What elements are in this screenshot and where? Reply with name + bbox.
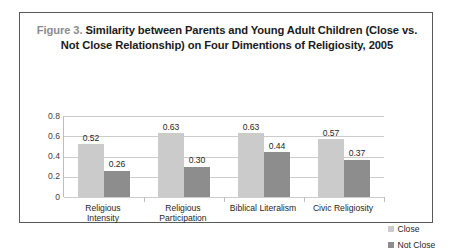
figure-title-text: Similarity between Parents and Young Adu… (61, 24, 417, 51)
y-axis-tick-label: 0.2 (26, 172, 60, 181)
x-axis-tick (304, 197, 305, 202)
x-axis-category-label: Biblical Literalism (217, 203, 309, 213)
bar-not-close[interactable] (344, 160, 370, 197)
y-axis: 00.20.40.60.8 (24, 99, 60, 222)
legend-label: Close (398, 225, 420, 234)
bar-not-close[interactable] (264, 152, 290, 197)
bar-value-label: 0.44 (261, 142, 293, 151)
bar-not-close[interactable] (184, 167, 210, 197)
legend-item[interactable]: Not Close (388, 237, 448, 252)
figure-frame: Figure 3. Similarity between Parents and… (19, 12, 433, 223)
legend-label: Not Close (398, 241, 436, 250)
bar-value-label: 0.37 (341, 149, 373, 158)
legend-swatch-icon (388, 226, 394, 232)
x-axis-tick (144, 197, 145, 202)
x-axis-category-label: ReligiousIntensity (57, 203, 149, 224)
chart-plot-wrapper: 00.20.40.60.8 0.520.260.630.300.630.440.… (20, 99, 432, 222)
bar-group: 0.630.44 (224, 116, 304, 197)
legend-swatch-icon (388, 242, 394, 248)
x-axis-end-tick (384, 197, 385, 202)
bar-value-label: 0.30 (181, 156, 213, 165)
y-axis-tick-label: 0.8 (26, 112, 60, 121)
bar-value-label: 0.52 (75, 134, 107, 143)
bar-group: 0.570.37 (304, 116, 384, 197)
bar-close[interactable] (78, 144, 104, 197)
chart-title: Figure 3. Similarity between Parents and… (34, 23, 420, 52)
x-axis-category-label: ReligiousParticipation (137, 203, 229, 224)
chart-legend: CloseNot Close (388, 221, 448, 252)
bar-not-close[interactable] (104, 171, 130, 197)
plot-area: 0.520.260.630.300.630.440.570.37 (63, 116, 384, 197)
bar-value-label: 0.26 (101, 160, 133, 169)
figure-number-label: Figure 3. (37, 24, 83, 36)
y-axis-tick-label: 0.6 (26, 132, 60, 141)
y-axis-tick-label: 0 (26, 193, 60, 202)
y-axis-tick-label: 0.4 (26, 152, 60, 161)
bar-value-label: 0.63 (235, 123, 267, 132)
bar-value-label: 0.57 (315, 129, 347, 138)
bar-group: 0.520.26 (64, 116, 144, 197)
bar-group: 0.630.30 (144, 116, 224, 197)
x-axis-tick (224, 197, 225, 202)
bar-value-label: 0.63 (155, 123, 187, 132)
x-axis-category-label: Civic Religiosity (297, 203, 389, 213)
bar-close[interactable] (318, 139, 344, 197)
legend-item[interactable]: Close (388, 221, 448, 237)
